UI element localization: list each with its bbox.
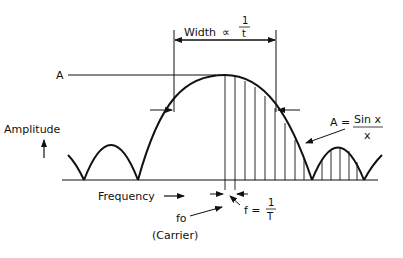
formula-lhs: A = [330,116,350,129]
width-fraction-numerator: 1 [242,15,248,26]
spacing-numerator: 1 [268,197,274,208]
spacing-lhs: f = [244,204,261,217]
peak-label: A [56,69,64,82]
formula-denominator: x [364,129,371,142]
amplitude-label: Amplitude [4,123,61,136]
width-label: Width [184,26,216,39]
sideband-lines [225,75,357,190]
carrier-pointer [190,207,222,216]
frequency-label: Frequency [98,190,155,203]
formula-pointer [306,129,345,143]
proportional-symbol: ∝ [222,26,230,39]
spacing-denominator: T [266,211,274,222]
spacing-dimension [210,194,248,205]
spectrum-diagram: Width ∝ 1 t A Amplitude A = Sin x x Freq… [0,0,403,258]
formula-numerator: Sin x [354,113,382,126]
carrier-label: (Carrier) [152,229,198,242]
carrier-symbol: fo [176,212,187,225]
width-fraction-denominator: t [242,28,246,39]
